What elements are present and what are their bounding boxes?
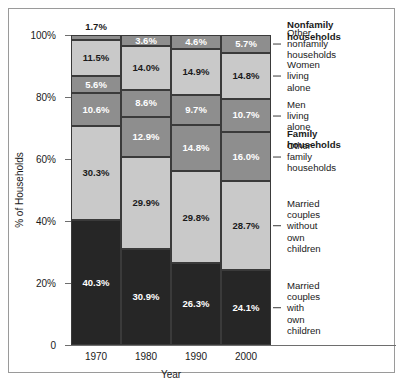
segment-1970-3[interactable]: 5.6% [71,76,121,93]
segment-value-label: 10.6% [83,105,110,115]
segment-1970-5[interactable] [71,35,121,40]
callout-leader-dash [273,156,281,157]
bar-2000[interactable]: 24.1%28.7%16.0%10.7%14.8%5.7% [221,35,271,345]
segment-value-label: 5.7% [235,39,257,49]
callout-other-nonfamily-households: Other nonfamily households [271,27,336,61]
segment-1980-2[interactable]: 12.9% [121,117,171,157]
x-axis-title: Year [161,369,181,380]
segment-1970-0[interactable]: 40.3% [71,220,121,345]
segment-1970-1[interactable]: 30.3% [71,126,121,220]
segment-value-label: 14.8% [233,71,260,81]
y-tick-0: 0 [65,345,71,346]
segment-1990-2[interactable]: 14.8% [171,125,221,171]
segment-2000-0[interactable]: 24.1% [221,270,271,345]
segment-value-label: 16.0% [233,152,260,162]
segment-2000-4[interactable]: 14.8% [221,53,271,99]
segment-value-label: 11.5% [83,53,109,63]
bar-1980[interactable]: 30.9%29.9%12.9%8.6%14.0%3.6% [121,35,171,345]
y-tick-label: 60% [36,154,56,165]
segment-1990-1[interactable]: 29.8% [171,171,221,263]
callout-leader-dash [273,75,281,76]
segment-value-label: 28.7% [233,221,260,231]
x-axis-line [71,345,396,346]
bar-1990[interactable]: 26.3%29.8%14.8%9.7%14.9%4.6% [171,35,221,345]
segment-value-label: 14.9% [183,67,210,77]
segment-2000-2[interactable]: 16.0% [221,132,271,182]
callout-married-couples-without-own-children: Married couples without own children [271,197,321,254]
y-tick-label: 80% [36,92,56,103]
segment-value-label: 30.9% [133,292,160,302]
y-tick-label: 0 [50,340,56,351]
segment-1970-2[interactable]: 10.6% [71,93,121,126]
figure-frame: 020%40%60%80%100% % of Households 1.7%40… [8,8,395,373]
callout-married-couples-with-own-children: Married couples with own children [271,280,321,337]
y-tick-label: 20% [36,278,56,289]
segment-1980-3[interactable]: 8.6% [121,90,171,117]
segment-value-label: 30.3% [83,168,110,178]
callout-label: Other family households [287,140,336,174]
segment-value-label: 5.6% [85,80,107,90]
segment-2000-3[interactable]: 10.7% [221,99,271,132]
callout-label: Married couples with own children [287,280,321,336]
segment-value-label: 29.9% [133,198,160,208]
segment-value-label: 4.6% [185,37,207,47]
segment-value-label-outside: 1.7% [85,21,107,32]
segment-1980-5[interactable]: 3.6% [121,35,171,46]
callout-leader-dash [273,225,281,226]
callout-leader-dash [273,307,281,308]
segment-value-label: 24.1% [233,303,260,313]
callout-leader-dash [273,115,281,116]
segment-value-label: 29.8% [183,213,210,223]
segment-value-label: 14.8% [183,143,210,153]
segment-2000-1[interactable]: 28.7% [221,181,271,270]
segment-value-label: 26.3% [183,299,210,309]
x-tick-label-1980: 1980 [135,351,157,362]
callout-label: Married couples without own children [287,197,321,253]
segment-1970-4[interactable]: 11.5% [71,40,121,76]
y-tick-label: 40% [36,216,56,227]
y-tick-label: 100% [30,30,56,41]
segment-value-label: 9.7% [185,105,207,115]
segment-value-label: 40.3% [83,278,110,288]
segment-1990-0[interactable]: 26.3% [171,263,221,345]
segment-value-label: 14.0% [133,63,160,73]
segment-1990-5[interactable]: 4.6% [171,35,221,49]
x-tick-label-1970: 1970 [85,351,107,362]
segment-value-label: 12.9% [133,132,160,142]
y-axis-title: % of Households [14,152,25,228]
callout-other-family-households: Other family households [271,140,336,174]
callout-label: Other nonfamily households [287,27,336,61]
segment-1990-4[interactable]: 14.9% [171,49,221,95]
callout-leader-dash [273,43,281,44]
segment-1990-3[interactable]: 9.7% [171,95,221,125]
segment-2000-5[interactable]: 5.7% [221,35,271,53]
segment-value-label: 10.7% [233,110,260,120]
segment-1980-0[interactable]: 30.9% [121,249,171,345]
callout-label: Women living alone [287,59,320,93]
segment-1980-1[interactable]: 29.9% [121,157,171,250]
x-tick-label-1990: 1990 [185,351,207,362]
callout-women-living-alone: Women living alone [271,59,320,93]
segment-value-label: 3.6% [135,36,157,46]
bar-1970[interactable]: 40.3%30.3%10.6%5.6%11.5% [71,35,121,345]
x-tick-label-2000: 2000 [235,351,257,362]
segment-value-label: 8.6% [135,98,157,108]
segment-1980-4[interactable]: 14.0% [121,46,171,89]
plot-area: 020%40%60%80%100% % of Households 1.7%40… [71,35,271,345]
